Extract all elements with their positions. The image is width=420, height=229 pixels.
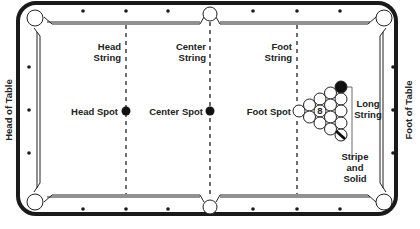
foot-spot-label: Foot Spot <box>247 106 292 117</box>
long-string-bracket <box>347 87 352 160</box>
head-string-label-1: Head <box>98 41 121 52</box>
head-string-label-2: String <box>94 52 122 63</box>
side-pocket-top <box>203 7 217 21</box>
center-spot-marker <box>206 107 215 116</box>
stripe-solid-label-1: Stripe <box>342 151 369 162</box>
center-spot-label: Center Spot <box>149 106 204 117</box>
center-string-label-1: Center <box>176 41 206 52</box>
foot-string-label-1: Foot <box>271 41 292 52</box>
pool-table-diagram: 8 Head String Center String Foot String … <box>0 0 420 229</box>
corner-pocket-top-right <box>376 10 392 26</box>
corner-pocket-top-left <box>27 10 43 26</box>
stripe-solid-label-3: Solid <box>343 173 366 184</box>
corner-pocket-bottom-left <box>27 194 43 210</box>
center-string-label-2: String <box>179 52 207 63</box>
foot-string-label-2: String <box>265 52 293 63</box>
long-string-label-1: Long <box>356 98 379 109</box>
eight-ball-label: 8 <box>317 105 322 116</box>
corner-pocket-bottom-right <box>376 194 392 210</box>
foot-of-table-label: Foot of Table <box>403 81 414 140</box>
stripe-solid-label-2: and <box>347 162 364 173</box>
head-spot-label: Head Spot <box>71 106 119 117</box>
head-of-table-label: Head of Table <box>3 79 14 141</box>
head-spot-marker <box>122 107 131 116</box>
side-pocket-bottom <box>203 200 217 214</box>
long-string-label-2: String <box>354 109 382 120</box>
